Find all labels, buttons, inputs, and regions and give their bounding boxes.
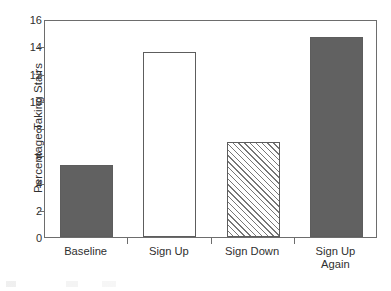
x-axis-tick-mark [127,238,128,244]
bar [227,142,280,237]
bar-chart-figure: Percentage Taking Stairs 0246810121416 B… [0,0,391,291]
x-axis-tick-mark [211,238,212,244]
bar [60,165,113,237]
x-axis-category-label: Sign Up Again [280,245,390,270]
bar [143,52,196,237]
x-axis-tick-mark [294,238,295,244]
scan-artifact [6,281,156,287]
bar [310,37,363,237]
plot-area [44,20,377,238]
y-axis-tick-label: 0 [12,232,42,244]
y-axis-tick-label: 16 [12,14,42,26]
